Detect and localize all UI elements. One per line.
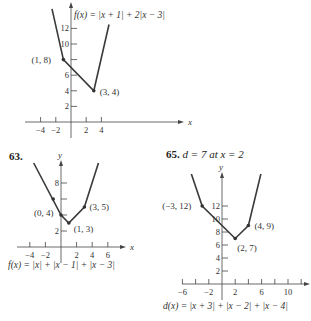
y-axis-label: y bbox=[218, 162, 223, 172]
x-axis-arrow-icon bbox=[304, 282, 310, 286]
data-point bbox=[92, 89, 96, 93]
y-axis-arrow-icon bbox=[59, 160, 63, 166]
data-point bbox=[51, 197, 55, 201]
svg-text:−4: −4 bbox=[25, 250, 35, 260]
x-axis-label: x bbox=[129, 242, 134, 252]
svg-text:−2: −2 bbox=[51, 125, 60, 135]
y-axis-arrow-icon bbox=[220, 172, 224, 178]
point-label: (2, 7) bbox=[237, 243, 257, 253]
problem-65-note: d = 7 at x = 2 bbox=[183, 148, 244, 160]
svg-text:12: 12 bbox=[61, 23, 70, 33]
x-axis-arrow-icon bbox=[178, 120, 184, 124]
function-curve bbox=[186, 157, 265, 238]
x-axis-arrow-icon bbox=[120, 245, 126, 249]
svg-text:−6: −6 bbox=[178, 287, 187, 297]
function-curve bbox=[52, 9, 109, 91]
data-point bbox=[247, 224, 251, 228]
graph-3: xy−6−2261024681012(−3, 12)(2, 7)(4, 9) bbox=[162, 157, 311, 300]
svg-text:12: 12 bbox=[212, 201, 221, 211]
problem-number-63: 63. bbox=[9, 150, 23, 162]
point-label: (−3, 12) bbox=[162, 201, 191, 211]
data-point bbox=[83, 205, 87, 209]
point-label: (1, 3) bbox=[74, 224, 94, 234]
svg-text:2: 2 bbox=[74, 250, 78, 260]
data-point bbox=[233, 237, 237, 241]
formula-63: f(x) = |x| + |x − 1| + |x − 3| bbox=[8, 260, 115, 270]
svg-text:6: 6 bbox=[65, 70, 69, 80]
svg-text:2: 2 bbox=[84, 125, 88, 135]
svg-text:−2: −2 bbox=[41, 250, 50, 260]
svg-text:−4: −4 bbox=[36, 125, 46, 135]
svg-text:8: 8 bbox=[216, 227, 220, 237]
svg-text:6: 6 bbox=[106, 250, 110, 260]
point-label: (0, 4) bbox=[34, 208, 54, 218]
graph-1: x−4−2242461012(1, 8)(3, 4) bbox=[25, 2, 192, 138]
graph-2: xy−4−224628(0, 4)(1, 3)(3, 5) bbox=[17, 150, 134, 263]
data-point bbox=[59, 213, 63, 217]
svg-text:4: 4 bbox=[99, 125, 104, 135]
svg-text:8: 8 bbox=[55, 178, 59, 188]
x-axis-label: x bbox=[187, 117, 192, 127]
problem-number-65: 65. d = 7 at x = 2 bbox=[166, 148, 244, 160]
svg-text:2: 2 bbox=[216, 266, 220, 276]
svg-text:4: 4 bbox=[65, 86, 70, 96]
figure-canvas: x−4−2242461012(1, 8)(3, 4)xy−4−224628(0,… bbox=[0, 0, 311, 321]
svg-text:−2: −2 bbox=[204, 287, 213, 297]
y-axis-label: y bbox=[57, 150, 62, 160]
formula-top: f(x) = |x + 1| + 2|x − 3| bbox=[74, 10, 165, 20]
y-axis-arrow-icon bbox=[69, 2, 73, 8]
point-label: (3, 5) bbox=[89, 202, 109, 212]
point-label: (1, 8) bbox=[31, 55, 51, 65]
data-point bbox=[67, 221, 71, 225]
svg-text:4: 4 bbox=[90, 250, 95, 260]
svg-text:6: 6 bbox=[216, 240, 220, 250]
svg-text:10: 10 bbox=[61, 39, 70, 49]
svg-text:6: 6 bbox=[259, 287, 263, 297]
svg-text:10: 10 bbox=[284, 287, 293, 297]
formula-65: d(x) = |x + 3| + |x − 2| + |x − 4| bbox=[163, 301, 288, 311]
svg-text:2: 2 bbox=[55, 226, 59, 236]
svg-text:2: 2 bbox=[233, 287, 237, 297]
data-point bbox=[62, 58, 66, 62]
point-label: (3, 4) bbox=[100, 87, 120, 97]
svg-text:2: 2 bbox=[65, 101, 69, 111]
data-point bbox=[200, 204, 204, 208]
point-label: (4, 9) bbox=[254, 221, 274, 231]
problem-number-65-label: 65. bbox=[166, 148, 180, 160]
svg-text:4: 4 bbox=[216, 253, 221, 263]
